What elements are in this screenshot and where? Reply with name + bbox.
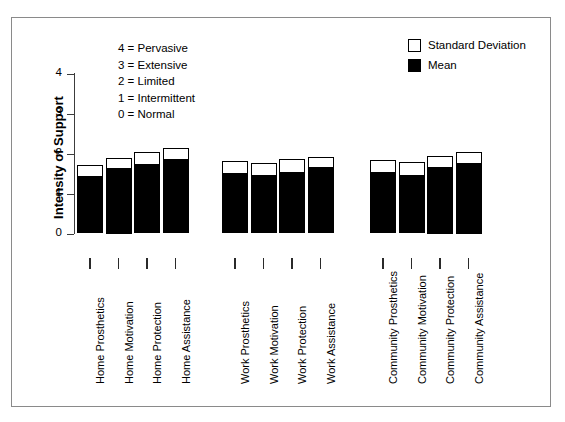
x-axis-tick xyxy=(146,258,147,269)
bar xyxy=(163,148,189,233)
bar xyxy=(77,165,103,234)
x-axis-label: Community Prosthetics xyxy=(388,270,399,383)
x-axis-label: Community Assistance xyxy=(474,272,485,383)
x-axis-label: Community Protection xyxy=(445,275,456,383)
bar-mean-segment xyxy=(252,175,276,232)
legend-item: Standard Deviation xyxy=(408,36,526,54)
scale-key-line: 0 = Normal xyxy=(118,106,195,123)
y-axis-tick-label: 0 xyxy=(40,227,62,239)
x-axis-label: Home Motivation xyxy=(124,301,135,384)
bar xyxy=(279,159,305,234)
x-axis-label: Home Prosthetics xyxy=(95,297,106,384)
bar-mean-segment xyxy=(107,168,131,232)
scale-key-line: 3 = Extensive xyxy=(118,57,195,74)
bar xyxy=(251,163,277,233)
x-axis-tick xyxy=(118,258,119,269)
x-axis-label: Home Assistance xyxy=(181,299,192,384)
bar xyxy=(106,158,132,234)
x-axis-tick xyxy=(439,258,440,269)
bar xyxy=(456,152,482,234)
bar-mean-segment xyxy=(400,175,424,233)
x-axis-label: Work Motivation xyxy=(269,305,280,384)
bar xyxy=(308,157,334,234)
y-axis-tick xyxy=(67,74,74,75)
bar-mean-segment xyxy=(371,172,395,232)
chart-plot-area: Intensity of Support 01234 Home Prosthet… xyxy=(0,0,565,422)
x-axis-tick xyxy=(411,258,412,269)
x-axis-tick xyxy=(291,258,292,269)
bar xyxy=(399,162,425,233)
x-axis-tick xyxy=(468,258,469,269)
scale-key-line: 2 = Limited xyxy=(118,73,195,90)
legend-label: Mean xyxy=(428,59,457,71)
bar-mean-segment xyxy=(164,159,188,233)
y-axis-tick-label: 2 xyxy=(40,147,62,159)
bar-mean-segment xyxy=(428,167,452,233)
y-axis-tick xyxy=(67,234,74,235)
bar xyxy=(222,161,248,234)
legend-swatch-standard-deviation xyxy=(408,39,421,52)
bar xyxy=(134,152,160,233)
legend-item: Mean xyxy=(408,56,526,74)
y-axis-tick xyxy=(67,194,74,195)
y-axis-tick-label: 3 xyxy=(40,107,62,119)
y-axis-line xyxy=(74,73,75,234)
bar-mean-segment xyxy=(78,176,102,232)
x-axis-label: Home Protection xyxy=(152,302,163,384)
figure: Intensity of Support 01234 Home Prosthet… xyxy=(0,0,565,422)
bar-mean-segment xyxy=(135,164,159,232)
legend-swatch-mean xyxy=(408,59,421,72)
x-axis-label: Community Motivation xyxy=(417,275,428,384)
bar-mean-segment xyxy=(280,172,304,232)
y-axis-tick xyxy=(67,154,74,155)
scale-key: 4 = Pervasive 3 = Extensive 2 = Limited … xyxy=(118,40,195,123)
y-axis-tick xyxy=(67,114,74,115)
bar xyxy=(427,156,453,234)
bar-mean-segment xyxy=(223,173,247,233)
x-axis-label: Work Assistance xyxy=(326,302,337,383)
scale-key-line: 4 = Pervasive xyxy=(118,40,195,57)
x-axis-tick xyxy=(263,258,264,269)
x-axis-tick xyxy=(320,258,321,269)
x-axis-label: Work Prosthetics xyxy=(240,301,251,384)
scale-key-line: 1 = Intermittent xyxy=(118,90,195,107)
bar-mean-segment xyxy=(309,167,333,233)
chart-legend: Standard Deviation Mean xyxy=(408,36,526,76)
bar-mean-segment xyxy=(457,163,481,233)
y-axis-tick-label: 1 xyxy=(40,187,62,199)
x-axis-label: Work Protection xyxy=(297,305,308,383)
x-axis-tick xyxy=(89,258,90,269)
legend-label: Standard Deviation xyxy=(428,39,526,51)
x-axis-tick xyxy=(175,258,176,269)
y-axis-tick-label: 4 xyxy=(40,67,62,79)
x-axis-tick xyxy=(382,258,383,269)
bar xyxy=(370,160,396,234)
x-axis-tick xyxy=(234,258,235,269)
